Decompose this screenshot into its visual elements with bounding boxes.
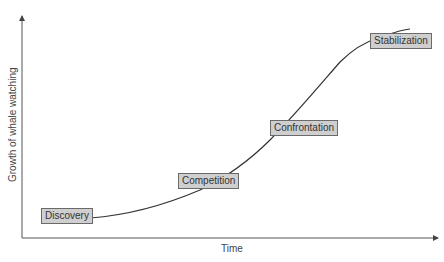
growth-curve [90, 29, 410, 218]
stage-label-confrontation: Confrontation [270, 120, 338, 136]
stage-label-stabilization: Stabilization [370, 33, 432, 49]
y-axis-label: Growth of whale watching [7, 67, 18, 182]
stage-label-competition: Competition [178, 173, 239, 189]
x-axis-label: Time [221, 243, 243, 254]
stage-label-discovery: Discovery [41, 208, 93, 224]
